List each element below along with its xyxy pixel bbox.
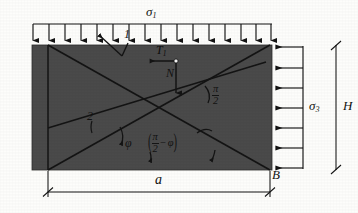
stress-block-diagram (0, 0, 358, 213)
label-sigma-3: σ3 (309, 99, 319, 114)
label-N: N (166, 67, 174, 79)
minus-sign: − (159, 137, 168, 148)
label-plane-1: 1 (124, 28, 130, 40)
label-pi-over-2: π 2 (212, 84, 219, 106)
pi-numerator-2: π (152, 132, 159, 144)
label-plane-2: 2 (87, 110, 93, 122)
label-pi-over-2-minus-phi: ( π 2 −φ) (148, 132, 177, 154)
paren-open: ( (148, 133, 152, 153)
label-sigma-1: σ1 (146, 5, 156, 20)
label-B: B (272, 168, 280, 181)
paren-close: ) (174, 133, 178, 153)
two-denominator: 2 (212, 96, 219, 107)
pi-numerator: π (212, 84, 219, 96)
sigma1-load-arrows (33, 24, 272, 41)
sigma3-load-arrows (276, 46, 303, 169)
label-a: a (155, 173, 162, 187)
label-phi: φ (125, 137, 132, 149)
label-T1: T1 (156, 44, 166, 57)
figure-root: σ1 σ3 H a B T1 N 1 2 φ π 2 ( π 2 −φ) (0, 0, 358, 213)
label-H: H (343, 99, 352, 112)
two-denominator-2: 2 (152, 144, 159, 155)
